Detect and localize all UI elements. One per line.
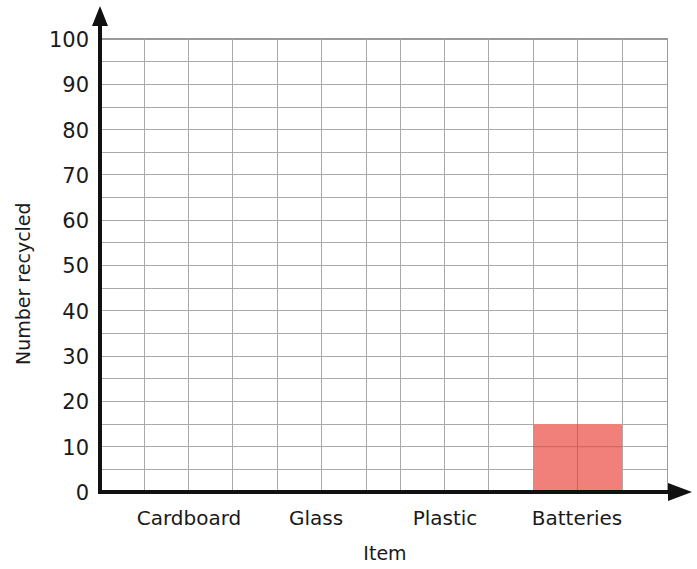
bar-chart: 100 90 80 70 60 50 40 30 20 10 0 Cardboa… <box>0 0 697 569</box>
y-tick-label: 0 <box>76 481 89 505</box>
y-tick-label: 30 <box>62 345 89 369</box>
y-tick-label: 10 <box>62 436 89 460</box>
x-axis-arrow-icon <box>668 483 692 501</box>
y-axis-arrow-icon <box>92 6 108 26</box>
y-tick-label: 20 <box>62 390 89 414</box>
y-axis-title: Number recycled <box>12 202 34 365</box>
y-tick-label: 90 <box>62 73 89 97</box>
x-tick-label-glass: Glass <box>289 506 343 530</box>
y-tick-label: 80 <box>62 119 89 143</box>
y-tick-label: 60 <box>62 209 89 233</box>
x-tick-label-batteries: Batteries <box>532 506 622 530</box>
x-axis-title: Item <box>363 542 406 564</box>
y-tick-label: 50 <box>62 254 89 278</box>
x-tick-labels: Cardboard Glass Plastic Batteries <box>137 506 623 530</box>
y-tick-label: 40 <box>62 300 89 324</box>
x-tick-label-plastic: Plastic <box>413 506 478 530</box>
y-tick-label: 100 <box>49 28 89 52</box>
y-tick-labels: 100 90 80 70 60 50 40 30 20 10 0 <box>49 28 89 505</box>
x-tick-label-cardboard: Cardboard <box>137 506 242 530</box>
y-tick-label: 70 <box>62 164 89 188</box>
chart-bars <box>533 424 622 492</box>
chart-canvas: 100 90 80 70 60 50 40 30 20 10 0 Cardboa… <box>0 0 697 569</box>
